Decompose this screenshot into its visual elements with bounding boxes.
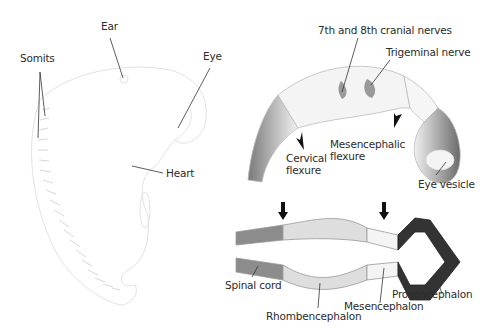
down-arrow-icon [379, 202, 389, 220]
label-ear: Ear [101, 20, 118, 32]
mesencephalic-arrow-icon [394, 113, 402, 128]
label-prosencephalon: Prosencephalon [392, 288, 472, 300]
label-mesencephalic-flexure-1: Mesencephalic [330, 138, 405, 150]
label-eye: Eye [203, 50, 222, 62]
somites [38, 108, 120, 290]
label-somits: Somits [20, 52, 55, 64]
label-cervical-flexure-2: flexure [286, 164, 321, 176]
label-cervical-flexure-1: Cervical [286, 152, 327, 164]
label-cranial-nerves: 7th and 8th cranial nerves [318, 24, 452, 36]
label-mesencephalon: Mesencephalon [344, 300, 424, 312]
leader-lines-left [38, 38, 210, 173]
cervical-arrow-icon [296, 132, 304, 150]
label-heart: Heart [166, 167, 194, 179]
label-spinal-cord: Spinal cord [225, 279, 281, 291]
embryo-drawing [32, 67, 207, 305]
label-eye-vesicle: Eye vesicle [418, 178, 475, 190]
down-arrow-icon [278, 202, 288, 220]
label-mesencephalic-flexure-2: flexure [330, 150, 365, 162]
brain-lateral-drawing [248, 66, 460, 183]
neural-tube-arrows [278, 202, 389, 220]
label-trigeminal-nerve: Trigeminal nerve [386, 46, 471, 58]
